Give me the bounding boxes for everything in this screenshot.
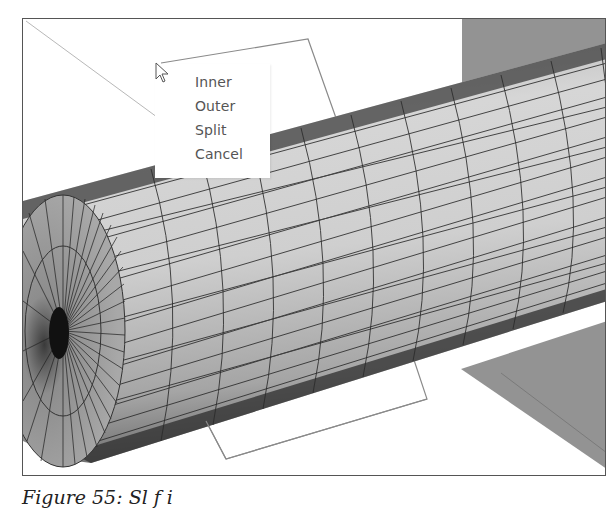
- menu-item-split[interactable]: Split: [195, 122, 227, 138]
- mouse-pointer-icon: [155, 62, 171, 84]
- figure-caption: Figure 55: Sl f i: [22, 486, 173, 508]
- cad-viewport[interactable]: [22, 18, 606, 476]
- menu-item-inner[interactable]: Inner: [195, 74, 232, 90]
- backplane-bottom: [461, 321, 606, 469]
- scene-canvas[interactable]: [23, 19, 606, 476]
- menu-item-outer[interactable]: Outer: [195, 98, 235, 114]
- context-menu: Inner Outer Split Cancel: [155, 64, 270, 178]
- menu-item-cancel[interactable]: Cancel: [195, 146, 243, 162]
